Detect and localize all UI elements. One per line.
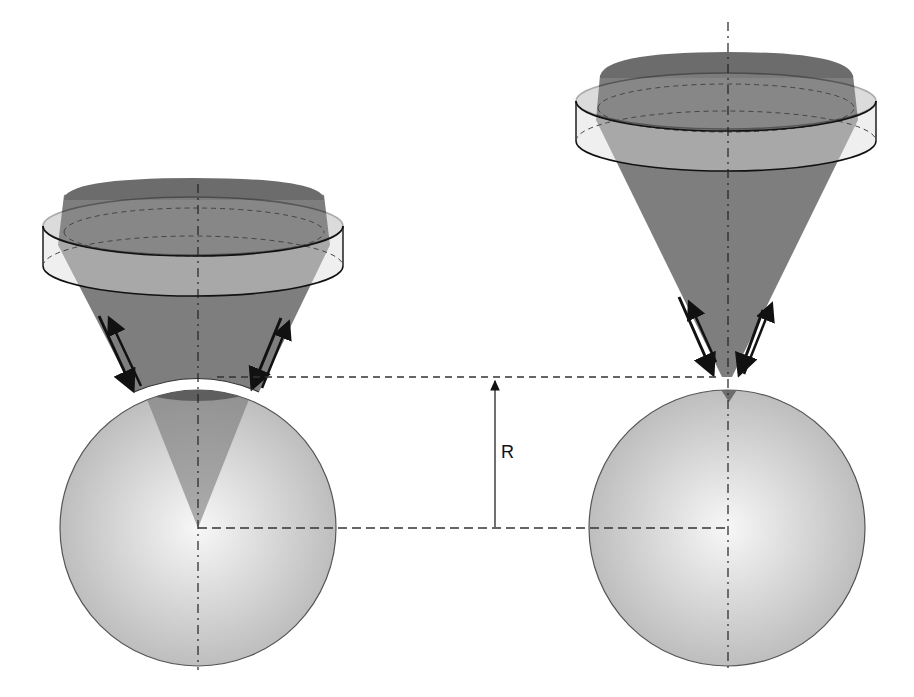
left-lens	[43, 197, 343, 296]
radius-label: R	[501, 442, 514, 463]
right-setup	[576, 22, 876, 670]
right-lens	[576, 73, 876, 171]
left-setup	[43, 178, 343, 670]
diagram-canvas	[0, 0, 914, 697]
